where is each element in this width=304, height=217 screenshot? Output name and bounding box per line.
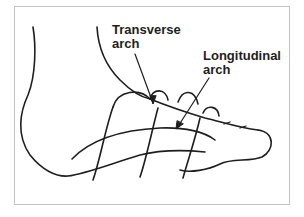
transverse-arch-loop [113, 92, 150, 107]
longitudinal-arch-pointer [177, 78, 209, 128]
longitudinal-arch-label: Longitudinal arch [203, 49, 281, 77]
transverse-line-2 [140, 108, 158, 177]
transverse-arch-label-line2: arch [112, 37, 181, 51]
transverse-line-1 [93, 107, 113, 180]
transverse-arch-label-line1: Transverse [112, 23, 181, 37]
toe-bump-3 [203, 107, 219, 116]
transverse-line-3 [183, 118, 200, 178]
longitudinal-arch-label-line1: Longitudinal [203, 49, 281, 63]
foot-outline-top [150, 99, 258, 130]
transverse-arch-label: Transverse arch [112, 23, 181, 51]
longitudinal-arch-label-line2: arch [203, 63, 281, 77]
toe-bump-2 [178, 92, 198, 104]
